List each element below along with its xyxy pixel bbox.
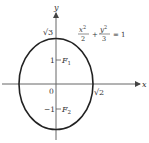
ellipse-diagram: y x √3 √2 0 1 −1 F1 F2 x2 2 + y2 3 = 1 bbox=[0, 0, 149, 143]
x-intercept-label: √2 bbox=[94, 88, 104, 97]
y-axis-label: y bbox=[53, 3, 59, 12]
svg-text:+: + bbox=[92, 31, 98, 39]
focus-one-label: F1 bbox=[61, 56, 71, 66]
x-axis-label: x bbox=[142, 80, 147, 89]
focus-two-label: F2 bbox=[61, 105, 71, 115]
svg-text:2: 2 bbox=[81, 35, 85, 43]
tick-label-neg-one: −1 bbox=[44, 105, 55, 114]
svg-text:y2: y2 bbox=[99, 24, 107, 34]
ellipse-equation: x2 2 + y2 3 = 1 bbox=[78, 24, 126, 43]
origin-label: 0 bbox=[49, 87, 54, 96]
tick-label-one: 1 bbox=[50, 56, 55, 65]
svg-text:3: 3 bbox=[102, 35, 106, 43]
svg-text:= 1: = 1 bbox=[113, 31, 126, 39]
y-intercept-label: √3 bbox=[43, 28, 53, 37]
svg-text:x2: x2 bbox=[79, 24, 86, 34]
